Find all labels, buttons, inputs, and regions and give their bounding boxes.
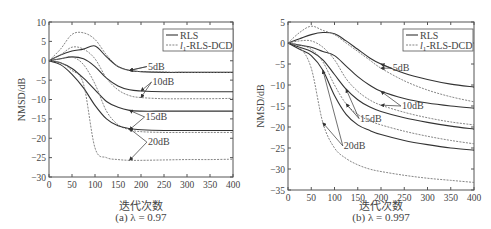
y-tick-label: 0	[280, 39, 285, 49]
annotation-arrow	[130, 129, 147, 143]
x-tick-label: 350	[444, 193, 459, 203]
series-line	[288, 43, 474, 144]
annotation-arrow	[346, 89, 359, 118]
annotation-arrow	[130, 117, 145, 130]
annotation-label: 20dB	[344, 140, 366, 151]
y-tick-label: 10	[37, 18, 47, 28]
x-tick-label: 400	[467, 193, 482, 203]
y-tick-label: −15	[270, 102, 285, 112]
y-tick-label: 5	[41, 37, 46, 47]
x-tick-label: 50	[67, 180, 77, 190]
y-axis-label: NMSD/dB	[255, 84, 266, 128]
annotation-label: 20dB	[148, 136, 170, 147]
caption-a-prefix: (a)	[115, 211, 130, 223]
annotation-arrow	[381, 64, 392, 68]
x-tick-label: 300	[180, 180, 195, 190]
x-tick-label: 50	[307, 193, 317, 203]
x-tick-label: 100	[88, 180, 103, 190]
x-tick-label: 250	[157, 180, 172, 190]
series-line	[49, 57, 233, 92]
legend: RLSl1-RLS-DCD	[403, 29, 473, 53]
annotation-label: 15dB	[360, 113, 382, 124]
caption-b: (b) λ = 0.997	[316, 211, 446, 223]
annotation-label: 10dB	[402, 100, 424, 111]
caption-b-lambda: λ = 0.997	[368, 211, 410, 223]
caption-a-lambda: λ = 0.97	[130, 211, 166, 223]
y-tick-label: 0	[41, 56, 46, 66]
chart-a: 0501001502002503003504001050−5−10−15−20−…	[0, 0, 245, 229]
series-line	[288, 43, 474, 150]
chart-b: 05010015020025030035040050−5−10−15−20−25…	[245, 0, 491, 229]
y-tick-label: −30	[31, 173, 46, 183]
annotation-arrow	[130, 142, 147, 160]
x-tick-label: 350	[203, 180, 218, 190]
y-tick-label: −20	[31, 134, 46, 144]
y-tick-label: −35	[270, 186, 285, 196]
series-line	[49, 61, 233, 111]
x-tick-label: 400	[226, 180, 241, 190]
x-tick-label: 200	[134, 180, 149, 190]
annotation-label: 5dB	[393, 62, 410, 73]
annotation-label: 5dB	[148, 61, 165, 72]
y-tick-label: −15	[31, 114, 46, 124]
annotation-label: 15dB	[146, 111, 168, 122]
caption-b-prefix: (b)	[352, 211, 368, 223]
y-axis-label: NMSD/dB	[16, 78, 27, 122]
y-tick-label: −20	[270, 123, 285, 133]
y-tick-label: −25	[31, 153, 46, 163]
annotation-label: 10dB	[153, 76, 175, 87]
x-tick-label: 0	[286, 193, 291, 203]
x-tick-label: 0	[47, 180, 52, 190]
annotation-arrow	[381, 105, 401, 106]
y-tick-label: −30	[270, 165, 285, 175]
y-tick-label: 5	[280, 18, 285, 28]
y-tick-label: −5	[275, 60, 285, 70]
figure: 0501001502002503003504001050−5−10−15−20−…	[0, 0, 491, 229]
x-tick-label: 150	[111, 180, 126, 190]
annotation-arrow	[130, 67, 147, 71]
caption-a: (a) λ = 0.97	[76, 211, 206, 223]
y-tick-label: −5	[36, 76, 46, 86]
annotation-arrow	[381, 91, 401, 106]
legend: RLSl1-RLS-DCD	[163, 29, 233, 53]
y-tick-label: −10	[270, 81, 285, 91]
y-tick-label: −25	[270, 144, 285, 154]
y-tick-label: −10	[31, 95, 46, 105]
